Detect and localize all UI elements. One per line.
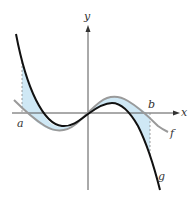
bound-b-label: b	[148, 98, 155, 111]
bound-a-label: a	[17, 117, 24, 130]
y-axis-arrow-icon	[86, 25, 91, 32]
curve-g-label: g	[158, 170, 165, 183]
x-axis-arrow-icon	[173, 111, 180, 116]
x-axis-label: x	[181, 106, 188, 119]
curve-f-label: f	[169, 127, 176, 140]
y-axis-label: y	[83, 10, 91, 23]
area-between-curves-diagram: y x a b f g	[0, 0, 188, 200]
